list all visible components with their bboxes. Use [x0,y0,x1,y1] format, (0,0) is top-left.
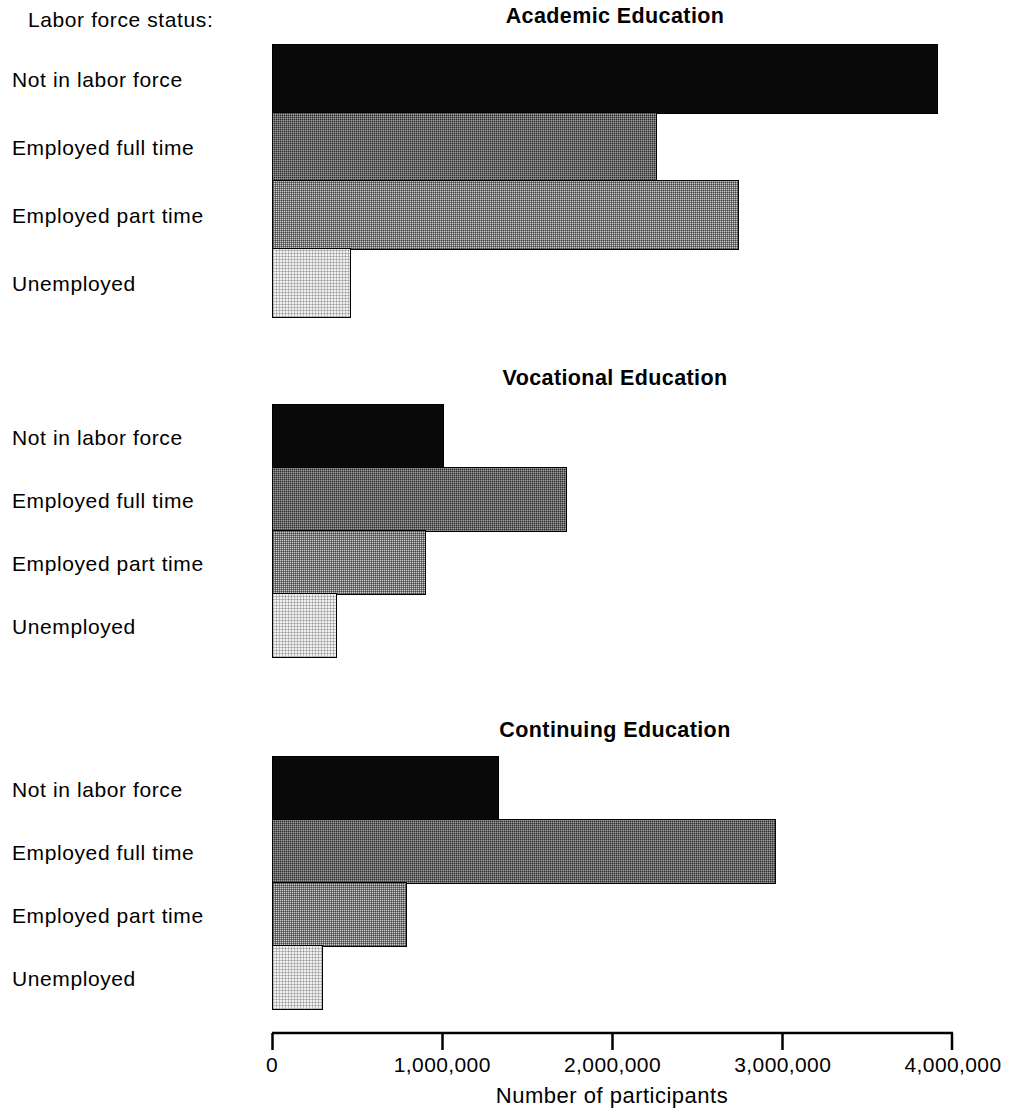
panel-title-vocational: Vocational Education [502,366,727,391]
labor-force-status-caption: Labor force status: [28,8,213,32]
x-tick-label: 4,000,000 [904,1053,1001,1077]
category-label-not-in-labor-force: Not in labor force [12,68,183,92]
figure-canvas: Labor force status: Academic Education V… [0,0,1019,1113]
category-label-employed-full-time: Employed full time [12,136,194,160]
bar-not-in-labor-force [272,404,444,469]
category-label-employed-part-time: Employed part time [12,904,204,928]
category-label-employed-full-time: Employed full time [12,489,194,513]
category-label-employed-full-time: Employed full time [12,841,194,865]
bar-employed-part-time [272,882,407,947]
bar-unemployed [272,248,351,318]
bar-not-in-labor-force [272,44,938,114]
category-label-employed-part-time: Employed part time [12,552,204,576]
x-tick-label: 3,000,000 [734,1053,831,1077]
category-label-employed-part-time: Employed part time [12,204,204,228]
x-axis-line-group [272,1033,953,1050]
bar-employed-full-time [272,112,657,182]
bar-employed-full-time [272,819,776,884]
bar-employed-part-time [272,530,426,595]
bar-unemployed [272,945,323,1010]
bar-not-in-labor-force [272,756,499,821]
x-tick-label: 0 [266,1053,278,1077]
category-label-not-in-labor-force: Not in labor force [12,426,183,450]
category-label-not-in-labor-force: Not in labor force [12,778,183,802]
x-axis-title: Number of participants [496,1083,728,1109]
bar-employed-part-time [272,180,739,250]
category-label-unemployed: Unemployed [12,967,136,991]
panel-title-continuing: Continuing Education [499,718,730,743]
category-label-unemployed: Unemployed [12,615,136,639]
bar-unemployed [272,593,337,658]
panel-title-academic: Academic Education [506,4,725,29]
x-tick-label: 1,000,000 [394,1053,491,1077]
bar-employed-full-time [272,467,567,532]
x-tick-label: 2,000,000 [564,1053,661,1077]
category-label-unemployed: Unemployed [12,272,136,296]
